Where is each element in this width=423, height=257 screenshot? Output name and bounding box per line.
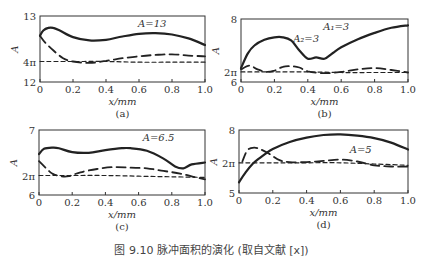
x-axis-label: x/mm	[310, 207, 338, 218]
x-tick-label: 0.6	[131, 197, 147, 208]
y-axis-label: A	[210, 47, 221, 55]
x-tick-label: 0.8	[164, 84, 180, 95]
annotation-label: A₁=3	[322, 21, 349, 32]
y-axis-label: A	[8, 159, 19, 167]
series-short-dash-line	[241, 72, 408, 73]
x-tick-label: 0.6	[131, 84, 147, 95]
x-tick-label: 0	[238, 84, 244, 95]
x-axis-label: x/mm	[109, 96, 137, 107]
plot-frame	[40, 16, 205, 82]
x-tick-label: 0.4	[299, 195, 315, 206]
x-tick-label: 0.8	[164, 197, 180, 208]
series-solid-line	[39, 147, 205, 168]
x-tick-label: 0.6	[333, 84, 349, 95]
panel-label: (b)	[317, 108, 331, 119]
y-tick-label: 8	[229, 125, 235, 136]
x-tick-label: 0.2	[64, 197, 80, 208]
y-tick-label: 2π	[224, 67, 237, 78]
annotation-label: A=5	[349, 144, 372, 155]
x-tick-label: 0.8	[366, 195, 382, 206]
y-tick-label: 2π	[222, 158, 235, 169]
x-axis-label: x/mm	[311, 96, 339, 107]
series-long-dash-line	[40, 36, 205, 63]
x-axis-label: x/mm	[108, 209, 136, 220]
annotation-label: A=13	[137, 18, 166, 29]
x-tick-label: 0.4	[98, 84, 114, 95]
series-solid-line	[239, 134, 408, 182]
plot-frame	[39, 130, 205, 195]
y-tick-label: 2π	[22, 171, 35, 182]
x-tick-label: 0.2	[266, 84, 282, 95]
x-tick-label: 0	[236, 195, 242, 206]
x-tick-label: 1.0	[400, 195, 416, 206]
x-tick-label: 1.0	[197, 84, 213, 95]
panel-label: (c)	[115, 221, 129, 232]
y-tick-label: 7	[29, 125, 35, 136]
series-solid-line	[40, 28, 205, 45]
y-axis-label: A	[9, 45, 20, 53]
x-tick-label: 0.2	[65, 84, 81, 95]
x-tick-label: 0.6	[332, 195, 348, 206]
y-tick-label: 4π	[23, 57, 36, 68]
y-tick-label: 6	[29, 190, 35, 201]
y-tick-label: 12	[23, 77, 36, 88]
x-tick-label: 0.4	[300, 84, 316, 95]
y-tick-label: 13	[23, 11, 36, 22]
x-tick-label: 0	[36, 197, 42, 208]
y-tick-label: 6	[231, 77, 237, 88]
series-solid-line	[241, 25, 408, 68]
panel-label: (d)	[316, 219, 330, 230]
series-short-dash-line	[239, 163, 408, 166]
series-short-dash-line	[40, 61, 205, 62]
y-axis-label: A	[208, 158, 219, 166]
x-tick-label: 1.0	[400, 84, 416, 95]
figure-caption: 图 9.10 脉冲面积的演化 (取自文献 [x])	[0, 241, 423, 257]
x-tick-label: 0.2	[265, 195, 281, 206]
x-tick-label: 0.4	[97, 197, 113, 208]
y-tick-label: 8	[231, 14, 237, 25]
x-tick-label: 1.0	[197, 197, 213, 208]
annotation-label: A₂=3	[292, 33, 319, 44]
annotation-label: A=6.5	[142, 132, 175, 143]
x-tick-label: 0	[37, 84, 43, 95]
y-tick-label: 5	[229, 188, 235, 199]
panel-label: (a)	[116, 108, 130, 119]
x-tick-label: 0.8	[367, 84, 383, 95]
